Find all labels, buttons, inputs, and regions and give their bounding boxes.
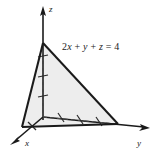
- x-axis-label: x: [25, 139, 29, 148]
- equation-term-y: y: [83, 41, 88, 52]
- equation-term-z: z: [99, 41, 103, 52]
- z-axis-label: z: [49, 5, 53, 14]
- coordinate-plane-diagram: [0, 0, 156, 156]
- equation-term-x: x: [67, 41, 72, 52]
- shaded-triangle-region: [22, 43, 118, 127]
- figure-container: 2x + y + z = 4 z y x: [0, 0, 156, 156]
- y-axis-label: y: [137, 139, 141, 148]
- plane-equation-label: 2x + y + z = 4: [62, 41, 120, 52]
- equation-plus-2: +: [90, 41, 96, 52]
- y-axis-arrowhead: [139, 124, 150, 131]
- equation-plus-1: +: [75, 41, 81, 52]
- equation-constant: 4: [114, 41, 119, 52]
- equation-equals: =: [106, 41, 112, 52]
